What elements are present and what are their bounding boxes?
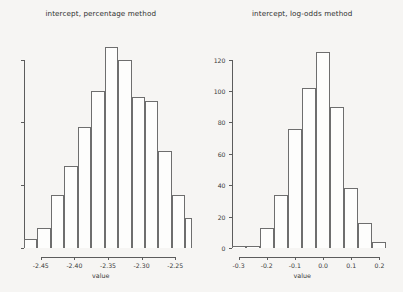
histogram-bar	[78, 127, 91, 248]
x-axis-label: -0.1	[289, 262, 301, 269]
x-axis-tick	[142, 257, 143, 260]
x-axis-tick	[323, 257, 324, 260]
histogram-bar	[105, 47, 118, 248]
y-axis-tick	[229, 91, 232, 92]
x-axis-label: -0.3	[232, 262, 244, 269]
y-axis-tick	[229, 154, 232, 155]
x-axis-label: -2.40	[66, 262, 82, 269]
histogram-bar	[91, 91, 104, 248]
x-axis-tick	[175, 257, 176, 260]
chart-title-right: intercept, log-odds method	[202, 9, 403, 18]
histogram-bar	[24, 239, 37, 248]
histogram-bar	[302, 88, 316, 248]
panel-log-odds-method: intercept, log-odds method 0204060801001…	[202, 0, 403, 292]
x-axis-tick	[108, 257, 109, 260]
plot-area-right: 020406080100120-0.3-0.2-0.10.00.10.2	[232, 44, 394, 248]
histogram-bar	[118, 60, 131, 248]
x-axis-label: -2.30	[134, 262, 150, 269]
x-axis-tick	[74, 257, 75, 260]
y-axis-tick	[229, 248, 232, 249]
x-axis-caption-left: value	[0, 272, 202, 280]
figure-container: intercept, percentage method -2.45-2.40-…	[0, 0, 403, 292]
plot-area-left: -2.45-2.40-2.35-2.30-2.25	[24, 44, 192, 248]
x-axis-tick	[351, 257, 352, 260]
y-axis-tick	[21, 185, 24, 186]
histogram-bar	[358, 223, 372, 248]
y-axis-tick	[229, 185, 232, 186]
histogram-bar	[172, 195, 185, 248]
x-axis-label: -2.45	[33, 262, 49, 269]
histogram-bar	[232, 246, 246, 248]
y-axis-label: 60	[210, 150, 226, 157]
y-axis-tick	[229, 60, 232, 61]
y-axis-tick	[21, 60, 24, 61]
chart-title-left: intercept, percentage method	[0, 9, 202, 18]
y-axis-line	[24, 60, 25, 248]
histogram-bar	[260, 228, 274, 248]
y-axis-tick	[229, 217, 232, 218]
histogram-bar	[372, 242, 386, 248]
x-axis-label: 0.1	[346, 262, 356, 269]
y-axis-label: 40	[210, 182, 226, 189]
histogram-bar	[185, 218, 192, 248]
x-axis-tick	[239, 257, 240, 260]
x-axis-label: 0.2	[374, 262, 384, 269]
y-axis-tick	[21, 248, 24, 249]
histogram-bar	[132, 97, 145, 248]
x-axis-tick	[379, 257, 380, 260]
histogram-bar	[158, 151, 171, 248]
y-axis-tick	[229, 122, 232, 123]
histogram-bar	[246, 246, 260, 248]
histogram-bar	[330, 107, 344, 248]
y-axis-label: 0	[210, 245, 226, 252]
histogram-bar	[64, 166, 77, 248]
histogram-bar	[51, 195, 64, 248]
histogram-bar	[274, 195, 288, 248]
y-axis-label: 80	[210, 119, 226, 126]
x-axis-label: -2.35	[100, 262, 116, 269]
y-axis-tick	[21, 122, 24, 123]
x-axis-tick	[295, 257, 296, 260]
panel-percentage-method: intercept, percentage method -2.45-2.40-…	[0, 0, 202, 292]
histogram-bar	[37, 228, 50, 248]
y-axis-label: 100	[210, 88, 226, 95]
x-axis-caption-right: value	[202, 272, 403, 280]
x-axis-line	[239, 257, 380, 258]
x-axis-label: -2.25	[167, 262, 183, 269]
y-axis-label: 120	[210, 56, 226, 63]
histogram-bar	[145, 101, 158, 249]
histogram-bar	[316, 52, 330, 248]
x-axis-label: 0.0	[318, 262, 328, 269]
histogram-bar	[288, 129, 302, 248]
y-axis-line	[232, 60, 233, 248]
x-axis-label: -0.2	[261, 262, 273, 269]
x-axis-tick	[267, 257, 268, 260]
y-axis-label: 20	[210, 213, 226, 220]
x-axis-tick	[41, 257, 42, 260]
histogram-bar	[344, 188, 358, 248]
